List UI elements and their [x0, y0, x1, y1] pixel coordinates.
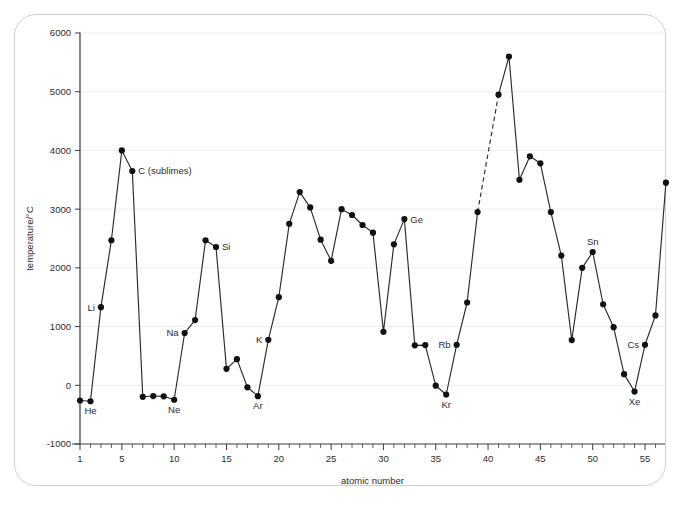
data-point [443, 391, 449, 397]
data-point-label: Xe [629, 396, 641, 407]
axes-group [72, 33, 665, 445]
data-point [558, 252, 564, 258]
data-point [527, 153, 533, 159]
series-dashed-connector [478, 95, 499, 212]
data-points-group [77, 53, 669, 404]
data-point [98, 304, 104, 310]
data-point [652, 312, 658, 318]
data-point [454, 342, 460, 348]
series-line-segment [80, 150, 478, 401]
data-point [192, 317, 198, 323]
data-point [631, 388, 637, 394]
y-tick-label: 6000 [50, 27, 71, 38]
data-point [663, 180, 669, 186]
data-point [537, 160, 543, 166]
data-point [349, 212, 355, 218]
x-tick-label: 30 [378, 453, 389, 464]
data-point [621, 371, 627, 377]
data-point [213, 244, 219, 250]
x-tick-label: 5 [119, 453, 124, 464]
data-point [579, 265, 585, 271]
point-labels-group: HeLiNeNaSiC (sublimes)ArKGeKrRbSnXeCs [84, 165, 640, 416]
x-tick-label: 25 [326, 453, 337, 464]
data-point-label: Na [166, 327, 179, 338]
data-point [464, 299, 470, 305]
data-point [516, 177, 522, 183]
data-point [422, 342, 428, 348]
data-point [642, 342, 648, 348]
x-tick-label: 35 [430, 453, 441, 464]
y-tick-label: 5000 [50, 86, 71, 97]
data-point-label: Si [222, 241, 230, 252]
data-point [77, 397, 83, 403]
data-point [265, 337, 271, 343]
y-tick-label: 1000 [50, 321, 71, 332]
data-point [150, 393, 156, 399]
data-point [569, 337, 575, 343]
data-point [129, 168, 135, 174]
data-point-label: He [84, 405, 96, 416]
data-point-label: Cs [627, 339, 639, 350]
data-point [433, 383, 439, 389]
data-point [338, 206, 344, 212]
data-point [495, 92, 501, 98]
data-point [318, 237, 324, 243]
data-point [370, 230, 376, 236]
data-point [255, 393, 261, 399]
data-series-group [80, 56, 666, 401]
line-chart: -100001000200030004000500060001510152025… [0, 0, 689, 509]
x-tick-label: 55 [640, 453, 651, 464]
x-tick-label: 40 [483, 453, 494, 464]
x-axis-title: atomic number [341, 475, 404, 486]
data-point [182, 330, 188, 336]
data-point [244, 384, 250, 390]
data-point [611, 324, 617, 330]
y-tick-label: 3000 [50, 204, 71, 215]
data-point-label: C (sublimes) [138, 165, 191, 176]
data-point [307, 204, 313, 210]
data-point [276, 294, 282, 300]
data-point-label: Li [88, 302, 95, 313]
x-tick-label: 1 [77, 453, 82, 464]
data-point [297, 189, 303, 195]
data-point [171, 397, 177, 403]
data-point [590, 249, 596, 255]
data-point-label: Rb [439, 339, 451, 350]
data-point [359, 222, 365, 228]
y-tick-label: 4000 [50, 145, 71, 156]
data-point-label: Sn [587, 236, 599, 247]
data-point-label: Ar [253, 400, 263, 411]
data-point [108, 237, 114, 243]
chart-container: -100001000200030004000500060001510152025… [0, 0, 689, 509]
x-tick-label: 45 [535, 453, 546, 464]
x-tick-label: 10 [169, 453, 180, 464]
x-tick-label: 20 [274, 453, 285, 464]
y-tick-label: 0 [66, 380, 71, 391]
data-point [328, 258, 334, 264]
x-tick-label: 15 [221, 453, 232, 464]
data-point [412, 342, 418, 348]
x-tick-label: 50 [587, 453, 598, 464]
y-tick-label: 2000 [50, 262, 71, 273]
data-point-label: Kr [441, 399, 451, 410]
series-line-segment [499, 56, 666, 391]
data-point [391, 241, 397, 247]
data-point [161, 393, 167, 399]
data-point [401, 216, 407, 222]
data-point [474, 209, 480, 215]
data-point [548, 209, 554, 215]
data-point-label: K [256, 334, 263, 345]
data-point-label: Ne [168, 404, 180, 415]
y-axis-title: temperature/°C [24, 206, 35, 271]
data-point [506, 53, 512, 59]
y-tick-label: -1000 [47, 438, 71, 449]
data-point [119, 147, 125, 153]
data-point [286, 221, 292, 227]
data-point [600, 301, 606, 307]
ticks-group: -100001000200030004000500060001510152025… [47, 27, 656, 464]
data-point [234, 356, 240, 362]
data-point [140, 394, 146, 400]
data-point [87, 398, 93, 404]
data-point [202, 237, 208, 243]
data-point-label: Ge [410, 214, 423, 225]
